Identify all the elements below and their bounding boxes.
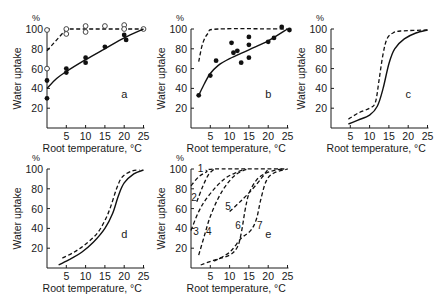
curve-label: 3 [193,226,199,237]
x-tick-label: 5 [207,270,213,282]
data-point [83,55,88,60]
x-axis-label: Root temperature, °C [187,282,287,294]
y-tick-label: 40 [315,82,327,94]
data-point [247,42,252,47]
data-point [45,78,50,83]
curve-solid [59,170,144,265]
x-tick-label: 15 [383,130,395,142]
y-tick-label: 100 [25,23,43,35]
panel-letter: d [121,228,127,240]
y-axis-label: Water uptake [11,187,23,249]
y-tick-label: 80 [315,43,327,55]
x-tick-label: 10 [80,130,92,142]
data-point [247,35,252,40]
x-tick-label: 20 [118,270,130,282]
y-tick-label: 20 [175,102,187,114]
x-tick-label: 20 [118,130,130,142]
panel-c: 20406080100%510152025Root temperature, °… [295,13,433,154]
curve-solid-filled-circles- [47,29,144,88]
x-tick-label: 15 [99,130,111,142]
y-tick-label: 20 [31,242,43,254]
y-axis-label: Water uptake [155,47,167,109]
data-point [266,39,271,44]
axes [47,169,145,268]
axes [191,29,289,128]
x-tick-label: 10 [364,130,376,142]
panel-letter: c [405,88,411,100]
x-tick-label: 10 [80,270,92,282]
y-tick-label: 100 [25,163,43,175]
x-tick-label: 25 [138,270,150,282]
x-tick-label: 5 [347,130,353,142]
panel-letter: b [265,88,271,100]
y-tick-label: 100 [169,23,187,35]
data-point [196,93,201,98]
x-tick-label: 15 [243,130,255,142]
x-tick-label: 20 [402,130,414,142]
axes [331,29,429,128]
y-tick-label: 60 [175,63,187,75]
data-point [229,40,234,45]
y-tick-label: 20 [175,242,187,254]
y-axis-label: Water uptake [11,47,23,109]
y-tick-label: 100 [309,23,327,35]
x-axis-label: Root temperature, °C [43,142,143,154]
y-axis-label: Water uptake [155,187,167,249]
data-point [208,73,213,78]
curve-label: 7 [257,220,263,231]
x-tick-label: 20 [262,270,274,282]
panel-d: 20406080100%510152025Root temperature, °… [11,153,149,294]
x-tick-label: 25 [138,130,150,142]
panel-a: 20406080100%510152025Root temperature, °… [11,13,149,154]
y-tick-label: 40 [175,82,187,94]
data-point [239,60,244,65]
y-unit: % [176,13,184,23]
panel-letter: e [265,228,271,240]
data-point [83,24,88,29]
data-point [45,66,50,71]
y-tick-label: 80 [175,43,187,55]
x-tick-label: 25 [422,130,434,142]
x-tick-label: 20 [262,130,274,142]
panel-b: 20406080100%510152025Root temperature, °… [155,13,293,154]
data-point [247,55,252,60]
data-point [103,24,108,29]
data-point [124,37,129,42]
data-point [272,36,277,41]
data-point [45,96,50,101]
y-tick-label: 40 [31,82,43,94]
y-tick-label: 60 [31,203,43,215]
curve-7 [214,169,287,261]
data-point [64,70,69,75]
x-tick-label: 10 [224,130,236,142]
figure: 20406080100%510152025Root temperature, °… [0,0,442,303]
y-tick-label: 40 [31,222,43,234]
data-point [279,25,284,30]
data-point [287,28,292,33]
curve-label: 1 [198,163,204,174]
y-tick-label: 20 [315,102,327,114]
axes [191,169,289,268]
curve-dashed-open-circles- [47,29,144,51]
y-tick-label: 60 [315,63,327,75]
y-tick-label: 80 [31,43,43,55]
y-unit: % [32,153,40,163]
x-axis-label: Root temperature, °C [43,282,143,294]
x-tick-label: 5 [207,130,213,142]
y-axis-label: Water uptake [295,47,307,109]
panel-e: 20406080100%510152025Root temperature, °… [155,153,293,294]
data-point [122,27,127,32]
x-tick-label: 10 [224,270,236,282]
curve-label: 6 [235,220,241,231]
curve-label: 2 [191,192,197,203]
curve-label: 5 [225,201,231,212]
curve-6 [201,169,284,265]
panel-letter: a [121,88,128,100]
curve-dashed [348,30,427,119]
y-unit: % [32,13,40,23]
y-unit: % [316,13,324,23]
y-unit: % [176,153,184,163]
x-tick-label: 25 [282,130,294,142]
data-point [64,32,69,37]
y-tick-label: 80 [175,183,187,195]
